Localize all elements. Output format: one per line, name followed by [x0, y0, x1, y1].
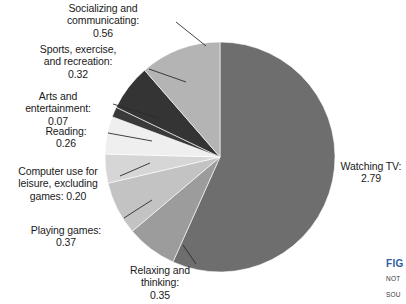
- label-reading: Reading: 0.26: [28, 125, 104, 150]
- figure-caption-label: FIG: [386, 258, 404, 269]
- label-watching-tv: Watching TV: 2.79: [336, 160, 406, 185]
- label-socializing: Socializing and communicating: 0.56: [28, 2, 178, 39]
- label-relaxing-thinking: Relaxing and thinking: 0.35: [108, 264, 212, 301]
- label-arts: Arts and entertainment: 0.07: [8, 90, 108, 127]
- leader-line-socializing: [176, 22, 206, 46]
- pie-chart-figure: Socializing and communicating: 0.56 Spor…: [0, 0, 406, 304]
- label-sports: Sports, exercise, and recreation: 0.32: [12, 43, 144, 80]
- figure-note-label: NOT: [386, 275, 400, 282]
- label-computer-use: Computer use for leisure, excluding game…: [2, 165, 114, 202]
- figure-source-label: SOU: [386, 291, 401, 298]
- label-playing-games: Playing games: 0.37: [14, 224, 118, 249]
